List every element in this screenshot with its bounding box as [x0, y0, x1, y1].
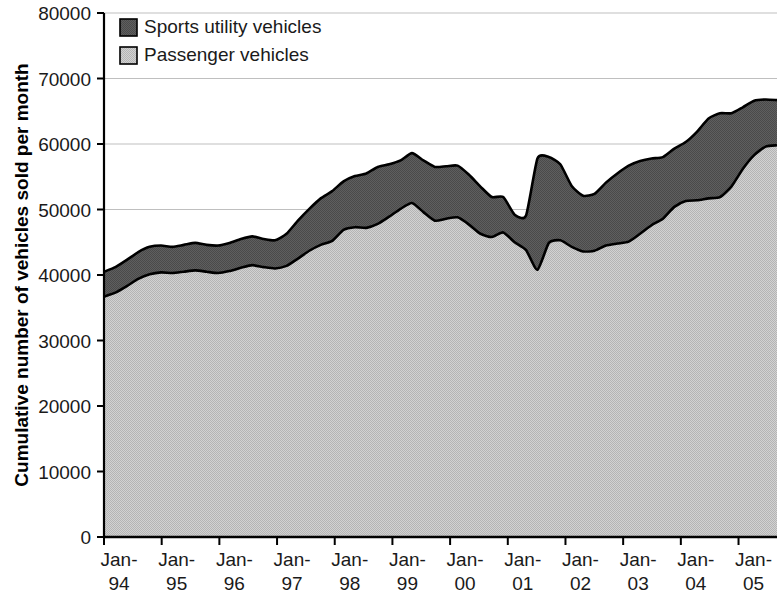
x-tick-label-month: Jan- — [620, 549, 657, 570]
x-tick-label-year: 03 — [628, 573, 649, 594]
x-tick-label-month: Jan- — [504, 549, 541, 570]
y-tick-label: 10000 — [38, 462, 91, 483]
x-tick-label-month: Jan- — [447, 549, 484, 570]
legend-label-sports-utility-vehicles: Sports utility vehicles — [144, 16, 321, 37]
x-tick-label-year: 98 — [339, 573, 360, 594]
x-tick-label-year: 02 — [570, 573, 591, 594]
area-chart: 8000070000600005000040000300002000010000… — [0, 0, 777, 606]
x-tick-label-year: 94 — [108, 573, 130, 594]
x-tick-label-month: Jan- — [389, 549, 426, 570]
legend-swatch-sports-utility-vehicles — [120, 19, 137, 36]
y-tick-label: 60000 — [38, 134, 91, 155]
x-tick-label-month: Jan- — [735, 549, 772, 570]
x-tick-label-year: 99 — [397, 573, 418, 594]
x-tick-label-month: Jan- — [677, 549, 714, 570]
x-tick-label-year: 05 — [743, 573, 764, 594]
y-tick-label: 70000 — [38, 69, 91, 90]
y-tick-label: 80000 — [38, 3, 91, 24]
y-tick-label: 50000 — [38, 200, 91, 221]
y-tick-label: 40000 — [38, 265, 91, 286]
x-tick-label-month: Jan- — [274, 549, 311, 570]
legend-label-passenger-vehicles: Passenger vehicles — [144, 44, 309, 65]
x-tick-label-month: Jan- — [101, 549, 138, 570]
x-tick-label-month: Jan- — [158, 549, 195, 570]
y-axis-title: Cumulative number of vehicles sold per m… — [11, 63, 32, 486]
x-tick-label-month: Jan- — [562, 549, 599, 570]
y-axis-ticks: 8000070000600005000040000300002000010000… — [38, 3, 104, 548]
chart-container: 8000070000600005000040000300002000010000… — [0, 0, 777, 606]
x-tick-label-month: Jan- — [216, 549, 253, 570]
x-tick-label-year: 97 — [281, 573, 302, 594]
x-tick-label-year: 01 — [512, 573, 533, 594]
x-tick-label-year: 95 — [166, 573, 187, 594]
y-tick-label: 0 — [80, 527, 91, 548]
y-tick-label: 30000 — [38, 331, 91, 352]
x-tick-label-year: 00 — [455, 573, 476, 594]
legend-swatch-passenger-vehicles — [120, 47, 137, 64]
x-axis-ticks: Jan-94Jan-95Jan-96Jan-97Jan-98Jan-99Jan-… — [101, 537, 772, 594]
y-tick-label: 20000 — [38, 396, 91, 417]
x-tick-label-month: Jan- — [331, 549, 368, 570]
x-tick-label-year: 04 — [685, 573, 707, 594]
x-tick-label-year: 96 — [224, 573, 245, 594]
